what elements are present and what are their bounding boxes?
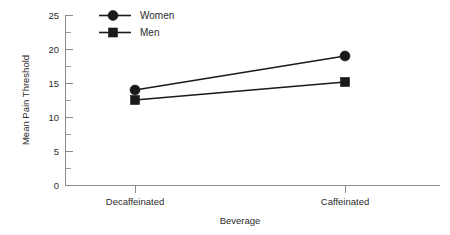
x-tick-labels: Decaffeinated Caffeinated — [106, 196, 369, 207]
x-axis-ticks — [136, 186, 346, 193]
y-tick-label-20: 20 — [48, 44, 59, 55]
data-point-men-decaffeinated — [131, 96, 140, 105]
data-point-women-decaffeinated — [130, 85, 140, 95]
series-men — [131, 78, 350, 105]
interaction-plot: 25 20 15 10 5 0 Mean Pain Threshold Deca… — [0, 0, 450, 235]
y-tick-label-0: 0 — [54, 180, 59, 191]
axis-spines — [66, 15, 441, 186]
legend-entry-men: Men — [99, 27, 159, 38]
data-point-men-caffeinated — [341, 78, 350, 87]
y-tick-label-10: 10 — [48, 112, 59, 123]
legend-label-women: Women — [140, 10, 174, 21]
y-tick-label-25: 25 — [48, 10, 59, 21]
y-axis-minor-ticks — [66, 33, 71, 169]
chart-figure: 25 20 15 10 5 0 Mean Pain Threshold Deca… — [0, 0, 450, 235]
x-axis-title: Beverage — [220, 215, 261, 226]
y-tick-label-15: 15 — [48, 78, 59, 89]
y-tick-label-5: 5 — [54, 146, 59, 157]
legend-label-men: Men — [140, 27, 159, 38]
series-women — [130, 51, 350, 95]
y-axis-title: Mean Pain Threshold — [20, 55, 31, 145]
legend-marker-circle-icon — [108, 11, 118, 21]
y-tick-labels: 25 20 15 10 5 0 — [48, 10, 59, 191]
legend-marker-square-icon — [109, 28, 118, 37]
legend-entry-women: Women — [99, 10, 174, 21]
x-tick-label-decaffeinated: Decaffeinated — [106, 196, 164, 207]
data-point-women-caffeinated — [340, 51, 350, 61]
chart-legend: Women Men — [99, 10, 174, 38]
x-tick-label-caffeinated: Caffeinated — [321, 196, 369, 207]
